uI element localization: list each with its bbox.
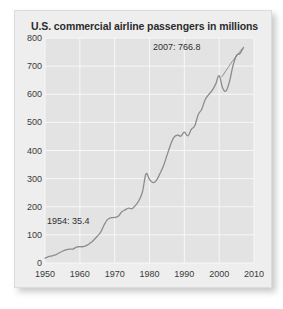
x-tick-label: 1950	[35, 269, 55, 279]
x-tick-label: 1980	[139, 269, 159, 279]
chart-figure: U.S. commercial airline passengers in mi…	[0, 0, 283, 309]
y-tick-label: 600	[16, 89, 42, 99]
start-point-label: 1954: 35.4	[47, 216, 90, 226]
y-tick-label: 500	[16, 117, 42, 127]
y-tick-label: 700	[16, 61, 42, 71]
y-tick-label: 200	[16, 202, 42, 212]
page-title: U.S. commercial airline passengers in mi…	[31, 20, 258, 32]
peak-point-label: 2007: 766.8	[153, 42, 201, 52]
x-tick-label: 2000	[209, 269, 229, 279]
x-axis-tick-labels: 1950196019701980199020002010	[45, 263, 254, 283]
y-axis-tick-labels: 8007006005004003002001000	[45, 38, 75, 263]
gridlines	[45, 38, 254, 263]
y-tick-label: 300	[16, 174, 42, 184]
x-tick-label: 2010	[244, 269, 264, 279]
x-tick-label: 1990	[174, 269, 194, 279]
y-tick-label: 800	[16, 33, 42, 43]
x-tick-label: 1960	[70, 269, 90, 279]
x-tick-label: 1970	[105, 269, 125, 279]
chart-card: U.S. commercial airline passengers in mi…	[14, 10, 272, 288]
y-tick-label: 400	[16, 146, 42, 156]
plot-area: 8007006005004003002001000 19501960197019…	[45, 38, 254, 263]
line-chart-svg	[45, 38, 254, 263]
y-tick-label: 100	[16, 230, 42, 240]
y-tick-label: 0	[16, 258, 42, 268]
